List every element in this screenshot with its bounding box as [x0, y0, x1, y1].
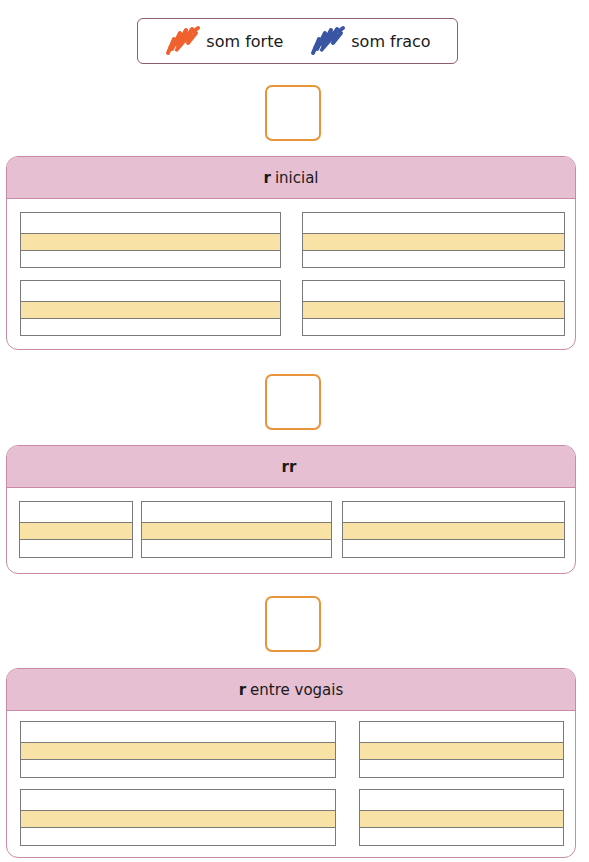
writing-line[interactable]	[302, 212, 565, 268]
section-title-bold: r	[239, 681, 246, 699]
writing-line[interactable]	[20, 789, 336, 846]
section-title-bold: rr	[282, 458, 297, 476]
section-header: r inicial	[7, 157, 575, 199]
writing-line[interactable]	[359, 721, 564, 778]
legend-label-weak: som fraco	[351, 32, 430, 51]
section-r-inicial: r inicial	[6, 156, 576, 350]
answer-checkbox-r-entre-vogais[interactable]	[265, 596, 321, 652]
section-title: entre vogais	[250, 681, 343, 699]
section-title-bold: r	[263, 169, 270, 187]
section-r-entre-vogais: r entre vogais	[6, 668, 576, 858]
answer-checkbox-rr[interactable]	[265, 374, 321, 430]
writing-line[interactable]	[359, 789, 564, 846]
section-rr: rr	[6, 445, 576, 574]
section-header: rr	[7, 446, 575, 488]
blue-scribble-icon	[309, 25, 347, 57]
orange-scribble-icon	[164, 25, 202, 57]
legend-item-weak: som fraco	[309, 25, 430, 57]
writing-line[interactable]	[20, 280, 281, 336]
writing-line[interactable]	[20, 721, 336, 778]
answer-checkbox-r-inicial[interactable]	[265, 85, 321, 141]
legend-label-strong: som forte	[206, 32, 283, 51]
section-title: inicial	[275, 169, 319, 187]
writing-line[interactable]	[342, 501, 565, 558]
legend: som forte som fraco	[137, 18, 458, 64]
writing-line[interactable]	[141, 501, 332, 558]
legend-item-strong: som forte	[164, 25, 283, 57]
writing-line[interactable]	[20, 212, 281, 268]
section-header: r entre vogais	[7, 669, 575, 711]
writing-line[interactable]	[302, 280, 565, 336]
writing-line[interactable]	[19, 501, 133, 558]
